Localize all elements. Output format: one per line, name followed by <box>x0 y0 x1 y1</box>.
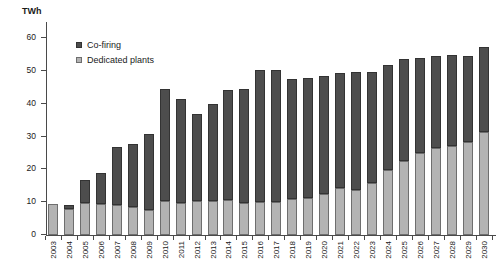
bar-segment-dedicated-plants <box>447 146 457 235</box>
bar-stack <box>144 0 154 235</box>
x-axis-tick-label: 2027 <box>432 241 441 259</box>
bar-segment-co-firing <box>351 72 361 190</box>
y-axis-tick-mark <box>41 234 46 235</box>
x-axis-tick-label: 2028 <box>448 241 457 259</box>
bar-stack <box>64 0 74 235</box>
x-axis-tick-label: 2006 <box>97 241 106 259</box>
x-axis-tick-label: 2019 <box>304 241 313 259</box>
x-axis-tick-mark <box>205 236 206 240</box>
x-axis-tick-mark <box>492 236 493 240</box>
bar-stack <box>447 0 457 235</box>
bar-segment-dedicated-plants <box>367 183 377 235</box>
bar-stack <box>128 0 138 235</box>
x-axis-tick-label: 2004 <box>65 241 74 259</box>
x-axis-tick-mark <box>444 236 445 240</box>
bar-stack <box>208 0 218 235</box>
y-axis-tick-label: 10 <box>0 196 36 206</box>
x-axis-tick-label: 2003 <box>49 241 58 259</box>
x-axis-tick-label: 2029 <box>464 241 473 259</box>
x-axis-tick-label: 2010 <box>161 241 170 259</box>
bar-segment-co-firing <box>223 90 233 201</box>
bar-segment-co-firing <box>287 79 297 199</box>
y-axis-tick-mark <box>41 136 46 137</box>
bar-stack <box>271 0 281 235</box>
x-axis-tick-label: 2020 <box>320 241 329 259</box>
bar-segment-co-firing <box>96 173 106 203</box>
x-axis-tick-label: 2023 <box>368 241 377 259</box>
bar-stack <box>160 0 170 235</box>
x-axis-tick-label: 2013 <box>209 241 218 259</box>
x-axis-tick-mark <box>316 236 317 240</box>
x-axis-tick-label: 2015 <box>240 241 249 259</box>
x-axis-tick-mark <box>220 236 221 240</box>
bar-segment-dedicated-plants <box>287 199 297 235</box>
bar-segment-co-firing <box>239 89 249 202</box>
bar-stack <box>335 0 345 235</box>
bar-stack <box>255 0 265 235</box>
x-axis-tick-label: 2021 <box>336 241 345 259</box>
x-axis-tick-label: 2014 <box>224 241 233 259</box>
bar-stack <box>399 0 409 235</box>
bar-stack <box>223 0 233 235</box>
x-axis-tick-mark <box>141 236 142 240</box>
y-axis-tick-label: 50 <box>0 65 36 75</box>
legend-label-dedicated-plants: Dedicated plants <box>87 55 154 65</box>
bar-segment-co-firing <box>271 70 281 201</box>
x-axis-tick-mark <box>380 236 381 240</box>
x-axis-tick-mark <box>45 236 46 240</box>
bar-segment-co-firing <box>192 114 202 201</box>
bar-segment-dedicated-plants <box>192 201 202 235</box>
bar-segment-co-firing <box>128 144 138 207</box>
bar-segment-co-firing <box>303 78 313 198</box>
x-axis-tick-mark <box>93 236 94 240</box>
bar-segment-co-firing <box>335 73 345 188</box>
x-axis-tick-mark <box>268 236 269 240</box>
bar-segment-dedicated-plants <box>303 198 313 235</box>
x-axis-tick-mark <box>157 236 158 240</box>
bar-segment-co-firing <box>367 72 377 183</box>
bar-segment-dedicated-plants <box>335 188 345 235</box>
x-axis-tick-label: 2018 <box>288 241 297 259</box>
x-axis-tick-label: 2005 <box>81 241 90 259</box>
y-axis-line <box>46 22 47 235</box>
bar-segment-dedicated-plants <box>128 207 138 235</box>
bar-segment-co-firing <box>431 56 441 148</box>
bar-stack <box>431 0 441 235</box>
bar-segment-co-firing <box>144 134 154 210</box>
bar-segment-dedicated-plants <box>112 205 122 235</box>
bar-segment-dedicated-plants <box>383 170 393 235</box>
bar-segment-dedicated-plants <box>176 203 186 235</box>
x-axis-tick-mark <box>189 236 190 240</box>
bar-stack <box>319 0 329 235</box>
legend-swatch-icon-co-firing <box>76 42 82 48</box>
bar-segment-dedicated-plants <box>431 148 441 235</box>
x-axis-tick-label: 2017 <box>272 241 281 259</box>
bar-segment-co-firing <box>415 58 425 152</box>
bar-segment-dedicated-plants <box>271 202 281 235</box>
bar-segment-co-firing <box>80 180 90 203</box>
bar-segment-co-firing <box>64 205 74 210</box>
bar-stack <box>287 0 297 235</box>
bar-stack <box>303 0 313 235</box>
x-axis-tick-mark <box>284 236 285 240</box>
bar-segment-co-firing <box>160 89 170 201</box>
bar-segment-dedicated-plants <box>96 204 106 235</box>
x-axis-tick-mark <box>476 236 477 240</box>
chart-legend: Co-firing Dedicated plants <box>76 38 154 68</box>
bar-segment-co-firing <box>176 99 186 203</box>
bar-segment-co-firing <box>112 147 122 205</box>
x-axis-tick-label: 2026 <box>416 241 425 259</box>
x-axis-tick-label: 2022 <box>352 241 361 259</box>
bar-stack <box>383 0 393 235</box>
x-axis-tick-label: 2016 <box>256 241 265 259</box>
x-axis-tick-mark <box>460 236 461 240</box>
bar-segment-dedicated-plants <box>48 204 58 235</box>
x-axis-tick-mark <box>109 236 110 240</box>
bar-stack <box>479 0 489 235</box>
x-axis-tick-mark <box>332 236 333 240</box>
bar-segment-co-firing <box>447 55 457 145</box>
x-axis-tick-mark <box>348 236 349 240</box>
legend-item-dedicated-plants: Dedicated plants <box>76 53 154 66</box>
bar-segment-dedicated-plants <box>479 132 489 235</box>
legend-swatch-icon-dedicated-plants <box>76 57 82 63</box>
